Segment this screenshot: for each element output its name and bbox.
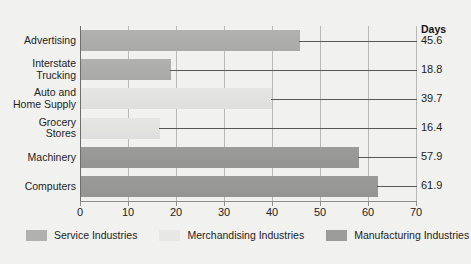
legend-label-service: Service Industries bbox=[54, 229, 137, 241]
plot-area bbox=[80, 26, 416, 201]
horizontal-bar-chart: AdvertisingInterstateTruckingAuto andHom… bbox=[0, 0, 471, 264]
bar-grocery-stores bbox=[81, 118, 160, 139]
x-tick-label-50: 50 bbox=[300, 206, 340, 218]
category-label-line: Advertising bbox=[0, 35, 76, 47]
value-label-computers: 61.9 bbox=[421, 179, 442, 191]
legend-label-merchandising: Merchandising Industries bbox=[187, 229, 304, 241]
x-axis-line bbox=[80, 201, 417, 202]
gridline-60 bbox=[368, 26, 369, 201]
gridline-40 bbox=[272, 26, 273, 201]
category-label-interstate-trucking: InterstateTrucking bbox=[0, 58, 76, 81]
gridline-20 bbox=[176, 26, 177, 201]
category-label-machinery: Machinery bbox=[0, 152, 76, 164]
legend-item-merchandising: Merchandising Industries bbox=[159, 229, 304, 241]
bar-advertising bbox=[81, 30, 300, 51]
y-axis-line bbox=[80, 26, 81, 201]
legend-swatch-manufacturing bbox=[326, 230, 347, 241]
x-tick-label-70: 70 bbox=[396, 206, 436, 218]
category-label-grocery-stores: GroceryStores bbox=[0, 117, 76, 140]
bar-interstate-trucking bbox=[81, 59, 171, 80]
category-label-auto-and-home-supply: Auto andHome Supply bbox=[0, 87, 76, 110]
bar-machinery bbox=[81, 147, 359, 168]
x-tick-label-30: 30 bbox=[204, 206, 244, 218]
value-label-machinery: 57.9 bbox=[421, 150, 442, 162]
leader-line-grocery-stores bbox=[159, 128, 417, 129]
legend-label-manufacturing: Manufacturing Industries bbox=[354, 229, 469, 241]
x-tick-label-10: 10 bbox=[108, 206, 148, 218]
leader-line-advertising bbox=[299, 41, 417, 42]
gridline-50 bbox=[320, 26, 321, 201]
leader-line-computers bbox=[377, 186, 417, 187]
category-label-line: Stores bbox=[0, 128, 76, 140]
bar-computers bbox=[81, 176, 378, 197]
x-tick-label-0: 0 bbox=[60, 206, 100, 218]
x-tick-label-60: 60 bbox=[348, 206, 388, 218]
category-label-line: Computers bbox=[0, 181, 76, 193]
leader-line-interstate-trucking bbox=[170, 70, 417, 71]
legend-swatch-merchandising bbox=[159, 230, 180, 241]
gridline-30 bbox=[224, 26, 225, 201]
bar-auto-and-home-supply bbox=[81, 88, 272, 109]
category-label-line: Trucking bbox=[0, 70, 76, 82]
legend-item-manufacturing: Manufacturing Industries bbox=[326, 229, 469, 241]
x-tick-label-20: 20 bbox=[156, 206, 196, 218]
x-tick-label-40: 40 bbox=[252, 206, 292, 218]
category-label-computers: Computers bbox=[0, 181, 76, 193]
gridline-10 bbox=[128, 26, 129, 201]
category-axis-labels: AdvertisingInterstateTruckingAuto andHom… bbox=[0, 26, 76, 201]
leader-line-auto-and-home-supply bbox=[271, 99, 417, 100]
chart-legend: Service IndustriesMerchandising Industri… bbox=[26, 228, 471, 242]
value-label-auto-and-home-supply: 39.7 bbox=[421, 92, 442, 104]
legend-swatch-service bbox=[26, 230, 47, 241]
category-label-line: Home Supply bbox=[0, 99, 76, 111]
legend-item-service: Service Industries bbox=[26, 229, 137, 241]
gridline-70 bbox=[416, 26, 417, 201]
leader-line-machinery bbox=[358, 157, 417, 158]
category-label-advertising: Advertising bbox=[0, 35, 76, 47]
value-label-advertising: 45.6 bbox=[421, 34, 442, 46]
value-label-interstate-trucking: 18.8 bbox=[421, 63, 442, 75]
category-label-line: Machinery bbox=[0, 152, 76, 164]
value-label-grocery-stores: 16.4 bbox=[421, 121, 442, 133]
